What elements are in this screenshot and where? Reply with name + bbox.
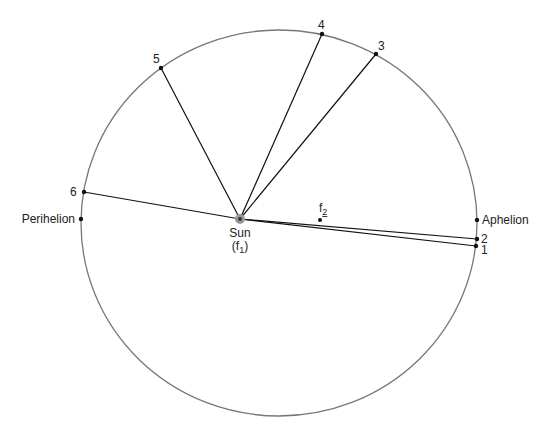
sweep-line-4 (240, 34, 322, 219)
sun-label: Sun (229, 226, 250, 240)
perihelion-point (79, 217, 83, 221)
diagram-canvas: 123456 Sun (f1) f2 Perihelion Aphelion (0, 0, 552, 437)
orbit-points: 123456 (70, 18, 488, 257)
point-label-2: 2 (481, 232, 488, 246)
sun-dot (238, 217, 242, 221)
point-label-4: 4 (318, 18, 325, 32)
point-label-3: 3 (378, 39, 385, 53)
focus2-dot (318, 218, 322, 222)
perihelion-label: Perihelion (22, 212, 75, 226)
orbit-point-5 (159, 66, 163, 70)
sweep-line-3 (240, 54, 376, 219)
focus2-label: f2 (319, 201, 327, 217)
sweep-line-1 (240, 219, 476, 246)
point-label-5: 5 (153, 52, 160, 66)
point-label-6: 6 (70, 185, 77, 199)
sweep-line-2 (240, 219, 477, 239)
orbit-point-4 (320, 32, 324, 36)
orbit-point-1 (474, 244, 478, 248)
aphelion-label: Aphelion (482, 213, 529, 227)
orbit-point-6 (82, 190, 86, 194)
orbit-diagram: 123456 Sun (f1) f2 Perihelion Aphelion (0, 0, 552, 437)
orbit-point-2 (475, 237, 479, 241)
sweep-line-6 (84, 192, 240, 219)
focus1-label: (f1) (232, 239, 248, 255)
aphelion-point (475, 218, 479, 222)
sweep-lines (84, 34, 477, 246)
sweep-line-5 (161, 68, 240, 219)
